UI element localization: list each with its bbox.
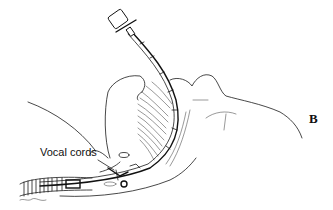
vocal-cords-label: Vocal cords [40,146,97,158]
larynx-structures [100,162,140,187]
lip-detail [224,114,226,130]
face-profile [170,75,302,138]
intubation-illustration: Vocal cords B [0,0,333,210]
tube-outer-wall [40,32,178,186]
panel-label: B [309,111,318,127]
line-drawing [0,0,333,210]
tongue-hatching [138,82,172,160]
head-outline [28,102,95,150]
vocal-cords-leader [98,160,114,170]
trachea-rings [20,177,92,196]
pharyngeal-wall [170,110,190,166]
tongue-outline [105,76,145,158]
tube-connector [107,9,136,37]
nostril-detail [206,112,236,118]
pharyngeal-wall-2 [166,112,186,164]
epiglottis-marker [119,153,129,158]
artist-signature [20,199,46,201]
